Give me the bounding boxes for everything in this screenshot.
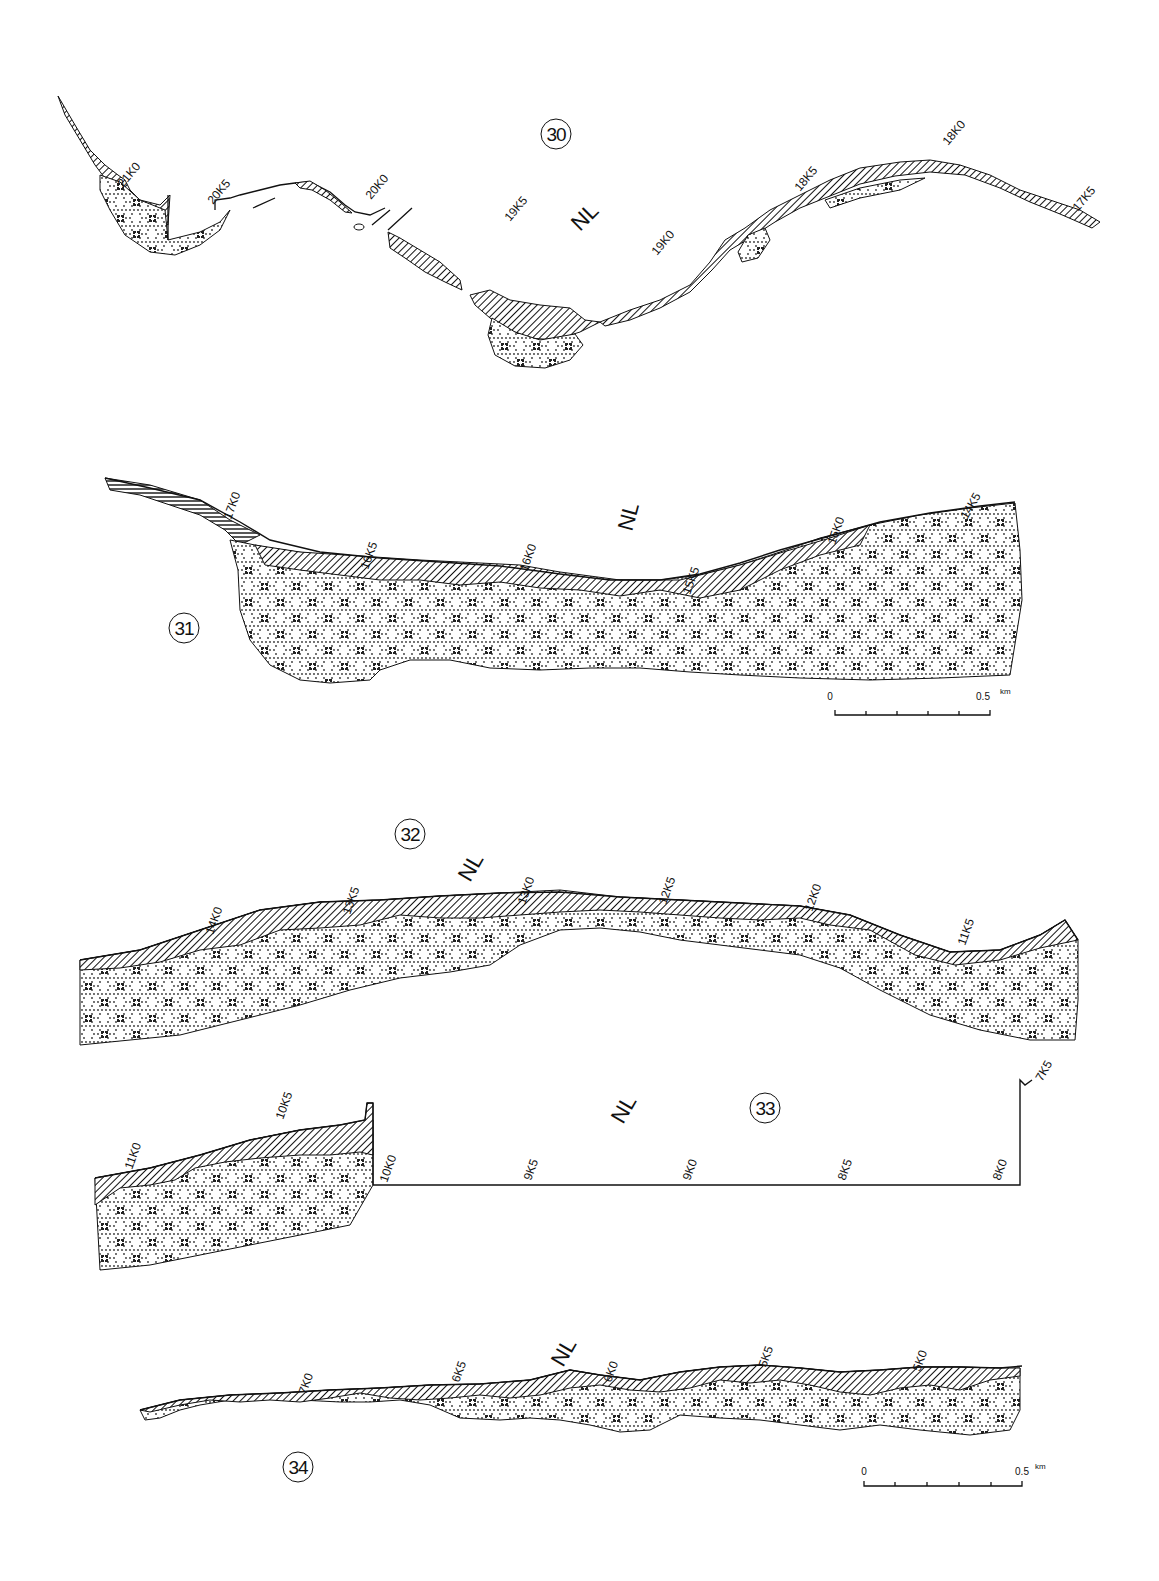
nl-label: NL xyxy=(613,500,644,534)
panel-33: 11K0 10K5 10K0 9K5 9K0 8K5 8K0 7K5 NL 33 xyxy=(95,1058,1055,1270)
km-marker: 20K5 xyxy=(205,176,234,207)
hatched-bank-area xyxy=(388,232,462,290)
km-marker: 10K0 xyxy=(377,1153,400,1184)
panel-number: 32 xyxy=(400,824,420,845)
km-marker: 11K0 xyxy=(122,1140,145,1171)
scale-bar: 0 0.5 km xyxy=(861,1462,1046,1486)
km-marker: 20K0 xyxy=(363,171,392,202)
km-marker: 8K5 xyxy=(835,1157,856,1182)
scale-end: 0.5 xyxy=(976,691,990,702)
km-marker: 6K5 xyxy=(449,1359,470,1384)
km-marker: 12K0 xyxy=(802,882,825,913)
km-marker: 8K0 xyxy=(990,1157,1011,1182)
scale-end: 0.5 xyxy=(1015,1466,1029,1477)
km-marker: 18K0 xyxy=(940,117,969,148)
island xyxy=(354,224,364,230)
nl-label: NL xyxy=(453,849,489,886)
panel-30: 21K0 20K5 20K0 19K5 19K0 18K5 18K0 17K5 … xyxy=(58,96,1100,368)
km-marker: 5K5 xyxy=(756,1344,777,1369)
km-marker: 19K5 xyxy=(502,193,531,224)
km-marker: 9K0 xyxy=(680,1157,701,1182)
hatched-bank-area xyxy=(295,181,352,213)
km-marker: 19K0 xyxy=(649,227,678,258)
km-marker: 10K5 xyxy=(273,1090,296,1121)
panel-34: 7K0 6K5 6K0 5K5 5K0 NL 34 xyxy=(140,1334,1022,1482)
scale-unit: km xyxy=(1000,687,1011,696)
panel-32: 14K0 13K5 13K0 12K5 12K0 11K5 NL 32 xyxy=(80,819,1078,1045)
scale-unit: km xyxy=(1035,1462,1046,1471)
nl-label: NL xyxy=(546,1334,582,1371)
panel-number: 30 xyxy=(546,124,566,145)
km-marker: 17K5 xyxy=(1070,183,1099,214)
km-marker: 17K0 xyxy=(221,490,244,521)
hatched-bank-area xyxy=(600,160,1100,326)
scale-start: 0 xyxy=(827,691,833,702)
scale-bar: 0 0.5 km xyxy=(827,687,1011,715)
panel-31: 17K0 16K5 16K0 15K5 15K0 14K5 NL 31 xyxy=(105,478,1022,683)
panel-number: 33 xyxy=(755,1098,775,1119)
km-marker: 21K0 xyxy=(115,159,144,190)
nl-label: NL xyxy=(566,198,604,236)
nl-label: NL xyxy=(606,1091,642,1128)
dotted-cross-area xyxy=(80,893,1078,1045)
panel-number: 34 xyxy=(288,1457,309,1478)
dotted-cross-area xyxy=(100,175,230,255)
scale-start: 0 xyxy=(861,1466,867,1477)
panel-number: 31 xyxy=(174,618,194,639)
km-marker: 9K5 xyxy=(521,1157,542,1182)
km-marker: 11K5 xyxy=(955,916,978,947)
km-marker: 7K5 xyxy=(1032,1058,1055,1084)
map-plate: 21K0 20K5 20K0 19K5 19K0 18K5 18K0 17K5 … xyxy=(0,0,1159,1581)
